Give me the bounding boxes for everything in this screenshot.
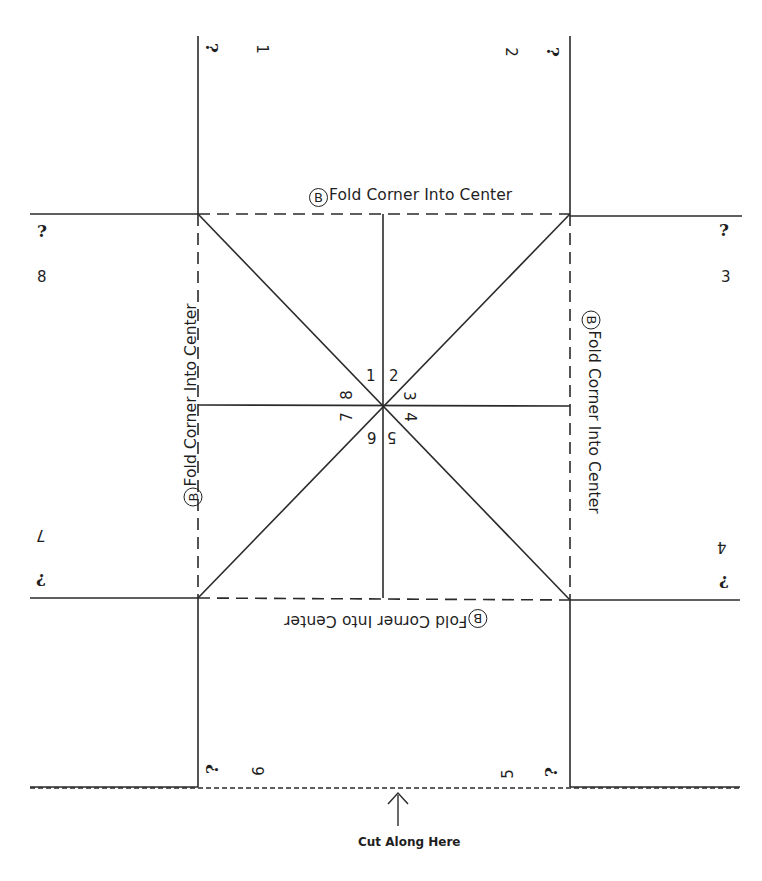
center-number-5: 5 (387, 428, 397, 446)
flap-number-5: 5 (499, 769, 517, 779)
flap-number-3: 3 (721, 268, 731, 286)
fold-label-right: BFold Corner Into Center (582, 311, 603, 511)
question-mark-right-bottom: ? (719, 572, 729, 592)
flap-number-7: 7 (36, 526, 46, 544)
question-mark-bottom-left: ? (202, 764, 222, 774)
flap-number-6: 6 (250, 766, 268, 776)
flap-number-1: 1 (253, 44, 271, 54)
question-mark-left-top: ? (37, 221, 47, 241)
center-number-7: 7 (338, 412, 356, 422)
fold-label-bottom: BFold Corner Into Center (284, 609, 487, 630)
center-number-6: 6 (367, 428, 377, 446)
center-number-4: 4 (401, 412, 419, 422)
circle-b-icon: B (309, 188, 328, 207)
horizontal-crease (198, 405, 570, 406)
question-mark-left-bottom: ? (36, 570, 46, 590)
circle-b-icon: B (184, 488, 203, 507)
cut-along-here-label: Cut Along Here (358, 835, 460, 849)
circle-b-icon: B (582, 311, 601, 330)
fold-label-top: BFold Corner Into Center (309, 186, 512, 207)
fold-label-left: BFold Corner Into Center (182, 307, 203, 507)
circle-b-icon: B (468, 609, 487, 628)
fortune-teller-template (0, 0, 762, 881)
fold-line-bottom (198, 598, 570, 600)
up-arrow-icon (388, 793, 408, 826)
question-mark-bottom-right: ? (541, 767, 561, 777)
center-number-1: 1 (366, 367, 376, 385)
center-number-8: 8 (338, 390, 356, 400)
question-mark-top-right: ? (543, 47, 563, 57)
flap-number-8: 8 (37, 268, 47, 286)
flap-number-2: 2 (502, 47, 520, 57)
question-mark-top-left: ? (202, 43, 222, 53)
question-mark-right-top: ? (719, 220, 729, 240)
flap-number-4: 4 (717, 538, 727, 556)
center-number-2: 2 (389, 367, 399, 385)
center-number-3: 3 (400, 391, 418, 401)
